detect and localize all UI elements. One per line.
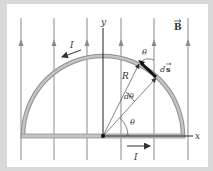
- dtheta-label: dθ: [124, 92, 134, 101]
- origin-point: [101, 134, 105, 138]
- x-axis-label: x: [195, 131, 200, 141]
- field-arrow-icon: [85, 39, 90, 46]
- magnetic-field-lines: [19, 18, 191, 160]
- theta-label: θ: [130, 118, 135, 127]
- radius-line-2: [103, 78, 156, 136]
- field-arrow-icon: [152, 39, 157, 46]
- field-label: B: [174, 22, 182, 32]
- field-arrow-icon: [119, 39, 124, 46]
- current-arrow-top: [62, 50, 81, 57]
- field-arrow-icon: [52, 39, 57, 46]
- theta-top-label: θ: [142, 48, 147, 57]
- field-arrow-icon: [19, 39, 24, 46]
- field-arrow-icon: [186, 39, 191, 46]
- radius-label: R: [121, 71, 129, 81]
- y-axis-label: y: [100, 17, 107, 27]
- ds-label-s: s: [166, 64, 171, 74]
- current-label-bottom: I: [133, 152, 138, 162]
- current-label-top: I: [69, 40, 74, 50]
- ds-label-d: d: [160, 65, 165, 74]
- diagram-canvas: y x B I I R dθ θ θ d s: [0, 0, 213, 171]
